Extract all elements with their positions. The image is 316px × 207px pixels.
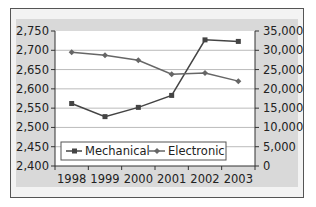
x-axis-tick-label: 2000 (124, 172, 153, 186)
x-axis-tick-label: 1998 (57, 172, 86, 186)
right-axis-tick-label: 15,000 (263, 101, 303, 115)
legend-entry: Mechanical (85, 144, 150, 158)
data-point (103, 114, 108, 119)
legend-entry: Electronic (168, 144, 225, 158)
right-axis-tick-label: 0 (263, 159, 270, 173)
data-point (203, 37, 208, 42)
data-point (69, 101, 74, 106)
legend: MechanicalElectronic (61, 142, 226, 160)
x-axis-tick-label: 1999 (90, 172, 119, 186)
right-axis-tick-label: 30,000 (263, 43, 303, 57)
left-axis-tick-label: 2,700 (16, 43, 49, 57)
right-axis-tick-label: 25,000 (263, 63, 303, 77)
right-axis-tick-label: 20,000 (263, 82, 303, 96)
left-axis-tick-label: 2,400 (16, 159, 49, 173)
data-point (236, 39, 241, 44)
left-axis-tick-label: 2,450 (16, 140, 49, 154)
data-point (136, 105, 141, 110)
x-axis-tick-label: 2002 (190, 172, 219, 186)
data-point (169, 93, 174, 98)
left-axis-tick-label: 2,550 (16, 101, 49, 115)
right-axis-tick-label: 35,000 (263, 24, 303, 38)
right-axis-tick-label: 10,000 (263, 120, 303, 134)
left-axis-tick-label: 2,650 (16, 63, 49, 77)
x-axis-tick-label: 2001 (157, 172, 186, 186)
left-axis-tick-label: 2,750 (16, 24, 49, 38)
x-axis-tick-label: 2003 (224, 172, 253, 186)
dual-axis-line-chart: 2,4002,4502,5002,5502,6002,6502,7002,750… (0, 0, 316, 207)
right-axis-tick-label: 5,000 (263, 140, 296, 154)
left-axis-tick-label: 2,600 (16, 82, 49, 96)
left-axis-tick-label: 2,500 (16, 120, 49, 134)
